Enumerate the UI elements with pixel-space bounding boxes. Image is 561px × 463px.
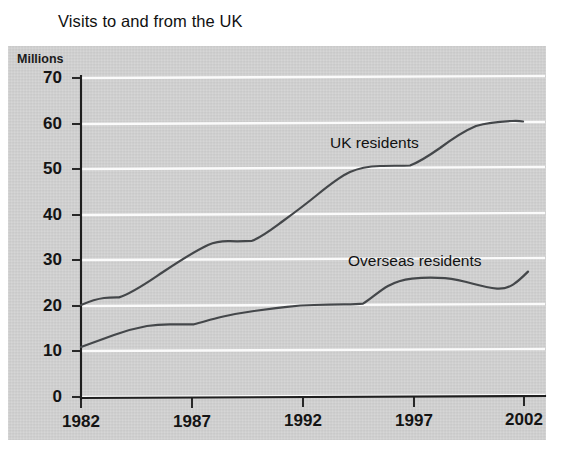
series-annotation-overseas-residents: Overseas residents	[348, 252, 482, 270]
x-tick-label-1987: 1987	[157, 412, 227, 432]
x-tick-label-1982: 1982	[46, 412, 116, 432]
x-tick-label-1992: 1992	[268, 411, 338, 431]
series-annotation-uk-residents: UK residents	[330, 134, 419, 152]
y-tick-label-60: 60	[16, 114, 62, 134]
chart-plot-area	[0, 0, 561, 463]
x-tick-label-1997: 1997	[379, 411, 449, 431]
y-tick-label-70: 70	[16, 68, 62, 88]
y-tick-label-30: 30	[16, 250, 62, 270]
y-tick-label-20: 20	[16, 296, 62, 316]
x-tick-label-2002: 2002	[489, 410, 559, 430]
chart-figure: Visits to and from the UK Millions	[0, 0, 561, 463]
gridlines	[81, 76, 545, 397]
y-tick-label-0: 0	[16, 387, 62, 407]
y-tick-label-40: 40	[16, 205, 62, 225]
y-axis-ticks	[72, 78, 81, 397]
y-tick-label-50: 50	[16, 159, 62, 179]
y-tick-label-10: 10	[16, 341, 62, 361]
